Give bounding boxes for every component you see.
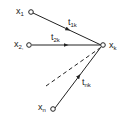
node-label-xk: xk [109,40,118,51]
node-xn [51,107,56,112]
node-x1 [29,10,34,15]
edge-xn-xk [55,47,101,108]
node-xk [101,43,106,48]
edge-dashed-xk [46,48,100,86]
edge-label-t2k: t2k [51,32,61,43]
node-label-x2: x2, [14,39,24,50]
graph-diagram: x1 x2, xn xk t1k t2k tnk [0,0,127,121]
edge-x1-xk [33,13,101,45]
node-label-xn: xn [38,102,46,113]
edge-label-t1k: t1k [68,17,78,28]
node-label-x1: x1 [16,6,25,17]
edge-label-tnk: tnk [82,77,92,88]
node-x2 [27,43,32,48]
